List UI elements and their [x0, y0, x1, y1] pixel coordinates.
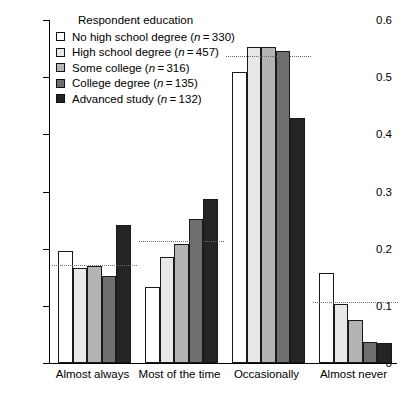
bar	[334, 304, 349, 363]
reference-line	[313, 302, 398, 303]
bar	[348, 320, 363, 363]
bar	[73, 268, 88, 363]
legend-items: No high school degree (n = 330)High scho…	[56, 29, 235, 107]
bar	[232, 72, 247, 363]
reference-line	[226, 56, 311, 57]
x-tick-label: Most of the time	[136, 368, 223, 380]
legend-item-label: Some college (n = 316)	[72, 62, 189, 74]
legend-item: Some college (n = 316)	[56, 60, 235, 76]
y-axis	[0, 0, 49, 412]
bar-group	[319, 20, 392, 363]
legend-swatch	[56, 32, 65, 41]
legend-item-label: Advanced study (n = 132)	[72, 93, 202, 105]
bar	[87, 266, 102, 363]
bar	[102, 276, 117, 363]
legend-swatch	[56, 94, 65, 103]
bar	[377, 343, 392, 363]
bar	[363, 342, 378, 363]
bar	[116, 225, 131, 363]
legend-swatch	[56, 79, 65, 88]
y-tick-mark	[43, 363, 49, 364]
bar	[261, 47, 276, 363]
bar	[160, 257, 175, 363]
x-axis-line	[49, 363, 397, 364]
legend-item: Advanced study (n = 132)	[56, 91, 235, 107]
bar	[145, 287, 160, 363]
legend-title: Respondent education	[78, 14, 235, 26]
x-tick-label: Occasionally	[223, 368, 310, 380]
bar	[290, 118, 305, 363]
legend-item: College degree (n = 135)	[56, 76, 235, 92]
legend-item: No high school degree (n = 330)	[56, 29, 235, 45]
grouped-bar-chart: 00.10.20.30.40.50.6 Almost alwaysMost of…	[0, 0, 402, 412]
bar	[174, 244, 189, 363]
legend-item-label: College degree (n = 135)	[72, 77, 198, 89]
bar	[58, 251, 73, 363]
reference-line	[52, 265, 137, 266]
legend-swatch	[56, 48, 65, 57]
legend-item-label: High school degree (n = 457)	[72, 46, 219, 58]
legend: Respondent education No high school degr…	[56, 14, 235, 107]
reference-line	[139, 241, 224, 242]
bar	[319, 273, 334, 363]
bar	[203, 199, 218, 363]
legend-swatch	[56, 63, 65, 72]
bar	[247, 47, 262, 363]
x-tick-label: Almost always	[49, 368, 136, 380]
x-tick-label: Almost never	[310, 368, 397, 380]
legend-item: High school degree (n = 457)	[56, 45, 235, 61]
bar	[276, 51, 291, 363]
legend-item-label: No high school degree (n = 330)	[72, 31, 235, 43]
bar-group	[232, 20, 305, 363]
